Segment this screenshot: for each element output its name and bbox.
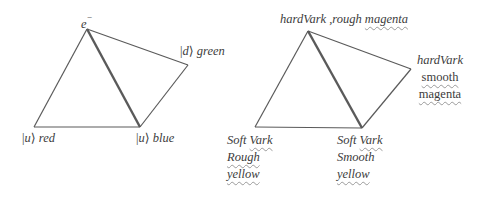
left-tetrahedron: [34, 29, 188, 127]
vertex-label-d-green: |d⟩ green: [180, 43, 225, 60]
electron-charge: −: [87, 12, 93, 22]
edge-apex-blue: [87, 29, 140, 127]
label-text: Soft: [227, 133, 250, 147]
label-text: Vark: [360, 133, 383, 147]
right-tetrahedron: [255, 31, 411, 128]
label-line: yellow: [227, 166, 273, 183]
edge-roughyellow-smoothyellow: [255, 127, 362, 128]
label-line: magenta: [405, 86, 475, 103]
color-label: blue: [153, 131, 175, 145]
edge-apex-roughyellow: [255, 31, 308, 127]
label-text: magenta: [365, 12, 408, 26]
vertex-label-soft-vark-smooth-yellow: Soft Vark Smooth yellow: [337, 132, 383, 183]
vertex-label-u-blue: |u⟩ blue: [136, 130, 174, 147]
edge-apex-red: [34, 29, 87, 127]
apex-label-hardvark-rough-magenta: hardVark ,rough magenta: [280, 11, 408, 28]
color-label: green: [197, 44, 225, 58]
edge-smoothyellow-smoothmagenta: [362, 69, 411, 128]
edge-apex-smoothyellow: [308, 31, 362, 128]
label-line: smooth: [405, 69, 475, 86]
electron-symbol: e: [81, 17, 87, 31]
label-text: Vark: [250, 133, 273, 147]
electron-label: e−: [81, 12, 93, 33]
edge-blue-green: [140, 65, 188, 127]
vertex-label-u-red: |u⟩ red: [22, 130, 55, 147]
vertex-label-hardvark-smooth-magenta: hardVark smooth magenta: [405, 52, 475, 103]
edge-apex-smoothmagenta: [308, 31, 411, 69]
label-line: Rough: [227, 149, 273, 166]
label-text: ,rough: [326, 12, 365, 26]
vertex-label-soft-vark-rough-yellow: Soft Vark Rough yellow: [227, 132, 273, 183]
label-line: yellow: [337, 166, 383, 183]
color-label: red: [39, 131, 55, 145]
label-text: Soft: [337, 133, 360, 147]
label-line: Smooth: [337, 149, 383, 166]
label-text: hardVark: [280, 12, 326, 26]
label-line: hardVark: [405, 52, 475, 69]
edge-apex-green: [87, 29, 188, 65]
